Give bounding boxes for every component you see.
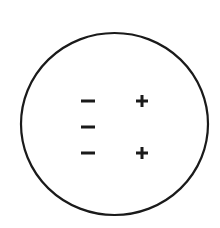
minus-sign-icon (81, 126, 95, 129)
minus-sign-icon (81, 152, 95, 155)
boundary-circle (21, 33, 208, 215)
minus-sign-icon (81, 100, 95, 103)
negative-charges-group (81, 100, 95, 155)
plus-sign-icon (136, 95, 148, 107)
positive-charges-group (136, 95, 148, 159)
charge-diagram (0, 0, 220, 228)
plus-sign-icon (136, 147, 148, 159)
diagram-canvas (0, 0, 220, 228)
